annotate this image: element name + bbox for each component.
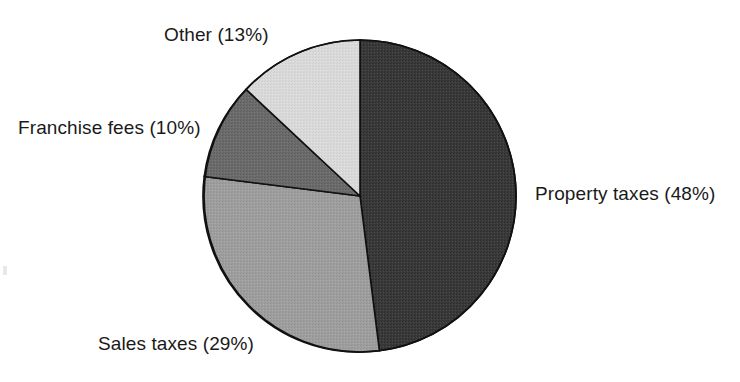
pie-label-property-taxes: Property taxes (48%) [535, 184, 715, 205]
scan-artifact-mark [3, 266, 7, 275]
pie-label-franchise-fees: Franchise fees (10%) [18, 118, 201, 139]
pie-slice-sales-taxes [203, 177, 379, 353]
pie-chart-figure: Other (13%) Franchise fees (10%) Sales t… [0, 0, 740, 382]
pie-label-other: Other (13%) [164, 25, 269, 46]
pie-label-sales-taxes: Sales taxes (29%) [98, 334, 254, 355]
pie-slice-property-taxes [360, 40, 516, 351]
